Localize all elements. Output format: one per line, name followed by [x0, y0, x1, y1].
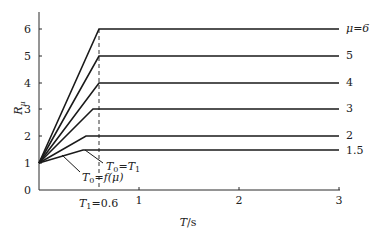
leader-t0-f-mu	[62, 155, 80, 172]
label-mu-2: 2	[346, 129, 353, 142]
label-mu-6: μ=6	[346, 22, 369, 35]
y-tick-1: 1	[24, 157, 31, 170]
annotation-t0-eq-f-mu: T0=f(μ)	[82, 171, 123, 185]
chart: 0 1 2 3 4 5 6 1 2 3 Rμ T/s	[0, 0, 377, 232]
y-tick-5: 5	[24, 50, 31, 63]
x-tick-2: 2	[236, 194, 243, 207]
chart-svg: 0 1 2 3 4 5 6 1 2 3 Rμ T/s	[0, 0, 377, 232]
leader-t0-t1	[85, 150, 103, 163]
series-mu-1-5	[39, 150, 339, 163]
annotation-t1-value: T1=0.6	[79, 197, 118, 211]
label-mu-5: 5	[346, 49, 353, 62]
x-axis-label: T/s	[180, 216, 197, 229]
y-axis-label: Rμ	[12, 101, 27, 116]
svg-text:Rμ: Rμ	[12, 101, 27, 116]
y-tick-0: 0	[24, 184, 31, 197]
label-mu-3: 3	[346, 102, 353, 115]
y-tick-6: 6	[24, 23, 31, 36]
label-mu-4: 4	[346, 76, 353, 89]
series-mu-6	[39, 29, 339, 163]
series-mu-4	[39, 83, 339, 163]
y-tick-4: 4	[24, 77, 31, 90]
x-tick-3: 3	[336, 194, 343, 207]
y-tick-2: 2	[24, 130, 31, 143]
x-tick-1: 1	[136, 194, 143, 207]
label-mu-1-5: 1.5	[346, 144, 364, 157]
